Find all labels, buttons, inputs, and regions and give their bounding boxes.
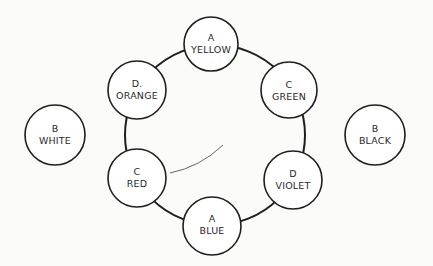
node-yellow: A YELLOW <box>184 17 238 71</box>
node-white: B WHITE <box>25 105 85 165</box>
node-blue-label: BLUE <box>199 225 224 236</box>
node-blue-letter: A <box>209 213 216 224</box>
node-blue: A BLUE <box>183 197 241 255</box>
node-black-label: BLACK <box>359 135 392 146</box>
node-green: C GREEN <box>261 62 317 118</box>
node-yellow-label: YELLOW <box>190 44 232 55</box>
node-white-label: WHITE <box>39 135 71 146</box>
node-red: C RED <box>108 149 166 207</box>
inner-arc <box>170 145 223 173</box>
node-black-letter: B <box>372 123 379 134</box>
node-green-letter: C <box>286 79 293 90</box>
node-red-label: RED <box>127 178 148 189</box>
node-green-circle <box>261 62 317 118</box>
node-green-label: GREEN <box>272 91 306 102</box>
node-violet-label: VIOLET <box>275 180 310 191</box>
node-white-letter: B <box>52 123 59 134</box>
node-black: B BLACK <box>345 105 405 165</box>
node-orange: D. ORANGE <box>108 61 166 119</box>
node-yellow-letter: A <box>208 32 215 43</box>
node-red-letter: C <box>134 166 141 177</box>
node-orange-label: ORANGE <box>116 90 158 101</box>
color-wheel-diagram: A YELLOW C GREEN D VIOLET A BLUE C RED D… <box>0 0 433 266</box>
node-violet-letter: D <box>289 168 297 179</box>
node-violet: D VIOLET <box>264 151 322 209</box>
node-orange-letter: D. <box>132 78 143 89</box>
